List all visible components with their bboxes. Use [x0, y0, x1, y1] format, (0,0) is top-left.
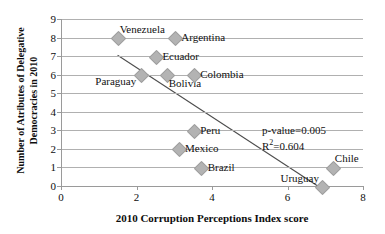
x-tick-label-8: 8: [360, 191, 366, 203]
gridline-y-4: [61, 112, 363, 113]
x-tick-mark-8: [363, 186, 364, 190]
y-tick-label-2: 2: [51, 143, 57, 155]
gridline-y-9: [61, 19, 363, 20]
x-tick-mark-4: [212, 186, 213, 190]
data-point-label: Colombia: [200, 69, 243, 80]
data-point-label: Venezuela: [120, 24, 165, 35]
gridline-y-5: [61, 93, 363, 94]
y-tick-label-1: 1: [51, 161, 57, 173]
x-tick-mark-0: [61, 186, 62, 190]
data-point-label: Uruguay: [280, 173, 319, 184]
data-point-label: Mexico: [185, 143, 219, 154]
y-tick-label-4: 4: [51, 106, 57, 118]
y-tick-label-3: 3: [51, 124, 57, 136]
x-tick-label-6: 6: [285, 191, 291, 203]
x-tick-mark-2: [137, 186, 138, 190]
data-point-label: Ecuador: [162, 51, 199, 62]
y-tick-label-6: 6: [51, 69, 57, 81]
statistics-annotation: p-value=0.005 R2=0.604: [262, 124, 326, 153]
p-value-text: p-value=0.005: [262, 124, 326, 138]
r-squared-value: =0.604: [273, 139, 304, 151]
gridline-y-7: [61, 56, 363, 57]
data-point-label: Argentina: [181, 32, 225, 43]
r-squared-text: R2=0.604: [262, 138, 326, 153]
x-tick-label-2: 2: [134, 191, 140, 203]
data-point-label: Paraguay: [95, 76, 136, 87]
data-point-label: Brazil: [208, 162, 235, 173]
y-tick-label-9: 9: [51, 13, 57, 25]
y-tick-label-7: 7: [51, 50, 57, 62]
y-tick-label-8: 8: [51, 32, 57, 44]
data-point-label: Peru: [200, 125, 220, 136]
y-tick-label-0: 0: [51, 180, 57, 192]
x-axis-title: 2010 Corruption Perceptions Index score: [61, 212, 363, 224]
x-tick-label-4: 4: [209, 191, 215, 203]
y-tick-label-5: 5: [51, 87, 57, 99]
y-axis-line: [61, 19, 62, 186]
x-tick-label-0: 0: [58, 191, 64, 203]
chart-screenshot: 012345678902468VenezuelaArgentinaEcuador…: [0, 0, 385, 234]
plot-area: 012345678902468VenezuelaArgentinaEcuador…: [61, 19, 363, 186]
y-axis-title: Number of Atributes of Delegative Democr…: [15, 16, 40, 186]
x-tick-mark-6: [288, 186, 289, 190]
data-point-label: Chile: [335, 153, 359, 164]
